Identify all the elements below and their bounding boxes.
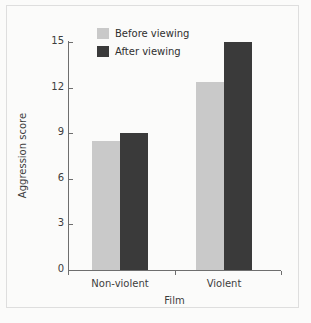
y-tick-label: 15 xyxy=(42,35,64,46)
y-tick-mark xyxy=(69,224,73,225)
x-tick-mark xyxy=(281,271,282,275)
bar xyxy=(120,133,148,270)
y-tick-label: 3 xyxy=(42,217,64,228)
legend-swatch xyxy=(97,46,109,57)
legend-item: Before viewing xyxy=(97,26,189,41)
y-axis-line xyxy=(68,41,69,271)
x-tick-mark xyxy=(68,271,69,275)
y-tick-mark xyxy=(69,270,73,271)
bar xyxy=(92,141,120,270)
y-tick-mark xyxy=(69,88,73,89)
y-tick-label: 6 xyxy=(42,172,64,183)
plot-area: 03691215 Non-violentViolent Aggression s… xyxy=(0,0,311,323)
x-tick-label: Non-violent xyxy=(70,278,170,289)
x-axis-title: Film xyxy=(68,295,281,306)
y-tick-label: 9 xyxy=(42,126,64,137)
legend-item: After viewing xyxy=(97,44,189,59)
chart-legend: Before viewingAfter viewing xyxy=(97,26,189,62)
bar xyxy=(196,82,224,270)
y-tick-label: 12 xyxy=(42,81,64,92)
legend-label: Before viewing xyxy=(115,28,189,39)
x-tick-label: Violent xyxy=(174,278,274,289)
y-tick-label: 0 xyxy=(42,263,64,274)
x-tick-mark xyxy=(175,271,176,275)
y-tick-mark xyxy=(69,133,73,134)
figure-container: 03691215 Non-violentViolent Aggression s… xyxy=(0,0,311,323)
legend-swatch xyxy=(97,28,109,39)
y-tick-mark xyxy=(69,42,73,43)
y-tick-mark xyxy=(69,179,73,180)
bar xyxy=(224,42,252,270)
y-axis-title: Aggression score xyxy=(17,96,28,216)
legend-label: After viewing xyxy=(115,46,181,57)
